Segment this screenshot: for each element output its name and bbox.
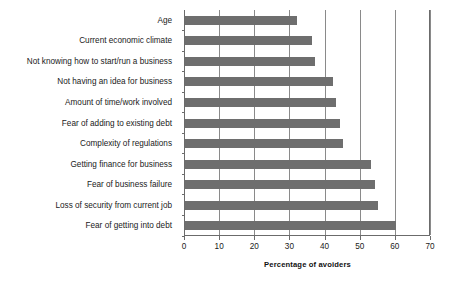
category-label: Current economic climate: [0, 36, 172, 45]
bar: [185, 98, 336, 107]
category-label: Fear of business failure: [0, 180, 172, 189]
gridline-70: [430, 10, 431, 235]
category-tick: [182, 51, 185, 52]
x-tick-70: [430, 236, 431, 240]
category-label: Fear of adding to existing debt: [0, 119, 172, 128]
category-tick: [182, 133, 185, 134]
category-tick: [182, 174, 185, 175]
category-label: Age: [0, 16, 172, 25]
category-label: Not having an idea for business: [0, 77, 172, 86]
x-tick-30: [289, 236, 290, 240]
x-tick-label-50: 50: [348, 242, 372, 251]
x-tick-10: [219, 236, 220, 240]
category-tick: [182, 92, 185, 93]
x-tick-label-70: 70: [418, 242, 442, 251]
bar: [185, 16, 297, 25]
bar: [185, 160, 371, 169]
bar-chart: AgeCurrent economic climateNot knowing h…: [0, 0, 458, 285]
bar: [185, 119, 340, 128]
x-tick-40: [325, 236, 326, 240]
category-tick: [182, 153, 185, 154]
category-label: Loss of security from current job: [0, 201, 172, 210]
category-label: Fear of getting into debt: [0, 221, 172, 230]
x-tick-label-10: 10: [207, 242, 231, 251]
category-tick: [182, 71, 185, 72]
category-label: Complexity of regulations: [0, 139, 172, 148]
category-tick: [182, 30, 185, 31]
bar: [185, 57, 315, 66]
x-axis-title: Percentage of avoiders: [184, 260, 431, 269]
bar: [185, 180, 375, 189]
x-tick-50: [360, 236, 361, 240]
bar: [185, 201, 378, 210]
category-tick: [182, 112, 185, 113]
x-tick-60: [395, 236, 396, 240]
category-tick: [182, 215, 185, 216]
category-tick: [182, 194, 185, 195]
x-tick-label-20: 20: [242, 242, 266, 251]
category-label: Getting finance for business: [0, 160, 172, 169]
gridline-60: [395, 10, 396, 235]
x-tick-label-40: 40: [313, 242, 337, 251]
x-tick-label-60: 60: [383, 242, 407, 251]
bar: [185, 77, 333, 86]
value-axis: 010203040506070: [184, 236, 431, 256]
plot-area: [184, 10, 430, 236]
bar: [185, 139, 343, 148]
x-tick-20: [254, 236, 255, 240]
bar: [185, 221, 396, 230]
category-axis-labels: AgeCurrent economic climateNot knowing h…: [0, 10, 178, 236]
category-label: Not knowing how to start/run a business: [0, 57, 172, 66]
bar: [185, 36, 312, 45]
x-tick-0: [184, 236, 185, 240]
category-label: Amount of time/work involved: [0, 98, 172, 107]
x-tick-label-30: 30: [277, 242, 301, 251]
x-tick-label-0: 0: [172, 242, 196, 251]
